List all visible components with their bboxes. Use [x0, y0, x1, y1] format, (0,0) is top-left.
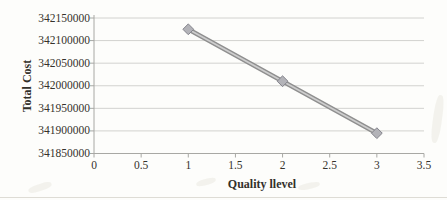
- y-tick-label: 342150000: [34, 12, 90, 25]
- y-axis-title: Total Cost: [20, 60, 35, 113]
- x-tick-label: 2.5: [312, 159, 348, 172]
- y-tick-label: 342000000: [34, 79, 90, 92]
- x-tick-label: 0.5: [123, 159, 159, 172]
- page-divider-line: [0, 197, 447, 198]
- y-tick-label: 342050000: [34, 57, 90, 70]
- x-tick-label: 2: [265, 159, 301, 172]
- x-axis-title: Quality llevel: [228, 177, 296, 192]
- x-tick-label: 3.5: [406, 159, 442, 172]
- x-tick-label: 1.5: [217, 159, 253, 172]
- y-tick-label: 341950000: [34, 102, 90, 115]
- y-tick-label: 342100000: [34, 34, 90, 47]
- y-tick-label: 341900000: [34, 124, 90, 137]
- x-tick-label: 0: [76, 159, 112, 172]
- x-tick-label: 1: [170, 159, 206, 172]
- chart-page: 3418500003419000003419500003420000003420…: [0, 0, 447, 200]
- x-tick-label: 3: [359, 159, 395, 172]
